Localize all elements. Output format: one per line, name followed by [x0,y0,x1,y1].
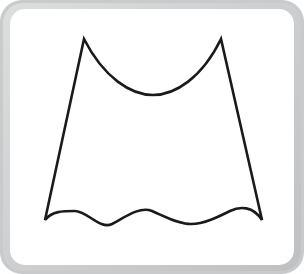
screenshot-root [0,0,304,274]
figure-canvas [0,0,304,274]
scalloped-flared-shape-path [45,39,262,225]
